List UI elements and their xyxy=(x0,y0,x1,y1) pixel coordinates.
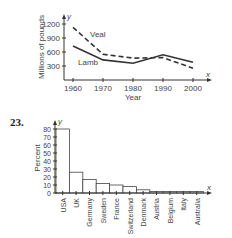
y-tick-label: 40 xyxy=(43,158,51,165)
y-tick-label: 80 xyxy=(43,126,51,133)
annotation-veal: Veal xyxy=(90,30,106,39)
y-axis-symbol: y xyxy=(66,12,72,21)
category-labels: USA UK Germany Sweden France Switzerland… xyxy=(60,198,201,235)
x-axis-symbol: x xyxy=(205,70,211,79)
category-label: Australia xyxy=(194,198,201,225)
y-axis-symbol: y xyxy=(57,117,63,126)
y-axis-arrow-icon xyxy=(62,14,66,19)
y-tick-label: 50 xyxy=(43,150,51,157)
y-axis-arrow-icon xyxy=(53,120,57,125)
bar-chart: 23. y x xyxy=(10,116,212,234)
bar-uk xyxy=(69,172,82,193)
bar-usa xyxy=(56,129,69,193)
bar-germany xyxy=(83,179,96,193)
x-tick-label: 1990 xyxy=(154,84,172,93)
x-axis-label: Year xyxy=(125,93,142,102)
x-tick-label: 2000 xyxy=(184,84,202,93)
category-label: Switzerland xyxy=(127,198,134,234)
y-tick-label: 60 xyxy=(43,142,51,149)
y-tick-labels: 0 10 20 30 40 50 60 70 80 xyxy=(43,126,51,197)
x-axis-symbol: x xyxy=(206,183,212,192)
chart-canvas: y x 300 600 900 1200 1960 1970 1980 1990… xyxy=(0,0,232,238)
x-tick-label: 1970 xyxy=(94,84,112,93)
problem-number: 23. xyxy=(10,116,24,128)
y-tick-label: 20 xyxy=(43,174,51,181)
category-label: Austria xyxy=(153,198,160,220)
y-tick-label: 600 xyxy=(47,48,61,57)
annotation-lamb: Lamb xyxy=(78,58,99,67)
y-tick-label: 30 xyxy=(43,166,51,173)
y-tick-label: 900 xyxy=(47,34,61,43)
bars xyxy=(56,129,203,193)
y-axis-label: Millions of pounds xyxy=(37,15,46,79)
category-label: France xyxy=(113,198,120,220)
category-label: Germany xyxy=(86,198,94,227)
y-axis-label: Percent xyxy=(33,143,42,171)
category-label: Belgium xyxy=(167,198,175,223)
category-label: UK xyxy=(73,198,80,208)
x-tick-label: 1960 xyxy=(64,84,82,93)
category-label: Italy xyxy=(180,198,188,211)
y-tick-label: 10 xyxy=(43,182,51,189)
line-chart: y x 300 600 900 1200 1960 1970 1980 1990… xyxy=(37,12,212,102)
y-tick-label: 70 xyxy=(43,134,51,141)
y-tick-label: 0 xyxy=(47,190,51,197)
y-tick-label: 300 xyxy=(47,62,61,71)
category-label: USA xyxy=(60,198,67,213)
x-tick-label: 1980 xyxy=(124,84,142,93)
category-label: Sweden xyxy=(100,198,107,223)
category-label: Denmark xyxy=(140,198,147,227)
